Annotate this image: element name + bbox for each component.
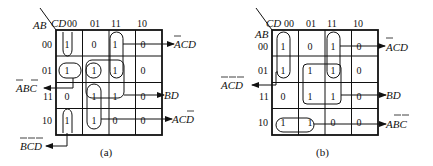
col-label-11: 11 — [111, 18, 121, 29]
karnaugh-figure: AB CD 00 01 11 10 00 01 11 10 1 0 1 0 1 … — [0, 0, 433, 166]
cell: 0 — [308, 41, 313, 52]
cell: 1 — [65, 115, 70, 126]
col-label-00: 00 — [284, 18, 294, 29]
group-abc — [59, 63, 81, 78]
row-label-10: 10 — [258, 117, 268, 128]
cell: 0 — [141, 115, 146, 126]
cell: 1 — [308, 91, 313, 102]
term-label-abc: ABC — [15, 82, 37, 94]
term-label-acd-top: ACD — [385, 41, 408, 53]
caption-b: (b) — [316, 146, 329, 159]
term-label-bd: BD — [164, 89, 179, 101]
row-var-label: AB — [32, 19, 47, 31]
kmap-cells: 1 0 1 0 1 1 1 0 0 1 1 0 1 1 0 0 — [281, 41, 362, 128]
col-label-01: 01 — [306, 18, 316, 29]
cell: 0 — [92, 39, 97, 50]
row-label-01: 01 — [42, 65, 52, 76]
term-label-acd-bar-a: ACD — [173, 38, 196, 50]
term-label-bcd: BCD — [20, 140, 42, 152]
col-label-10: 10 — [137, 18, 147, 29]
cell: 0 — [141, 91, 146, 102]
row-label-11: 11 — [259, 91, 269, 102]
cell: 1 — [113, 39, 118, 50]
caption-a: (a) — [100, 146, 113, 159]
cell: 0 — [281, 91, 286, 102]
row-label-01: 01 — [258, 65, 268, 76]
cell: 1 — [308, 65, 313, 76]
cell: 0 — [113, 115, 118, 126]
kmap-b: CD AB 00 01 11 10 00 01 11 10 1 0 1 0 1 … — [220, 8, 409, 159]
term-label-abc: ABC — [385, 118, 407, 130]
term-label-acd2: ACD — [171, 113, 194, 125]
term-label-bd: BD — [386, 89, 401, 101]
row-label-11: 11 — [43, 91, 53, 102]
cell: 1 — [281, 65, 286, 76]
cell: 1 — [113, 91, 118, 102]
cell: 0 — [65, 91, 70, 102]
cell: 1 — [113, 65, 118, 76]
col-var-label: CD — [51, 17, 66, 29]
cell: 1 — [65, 65, 70, 76]
cell: 0 — [331, 117, 336, 128]
col-label-10: 10 — [353, 18, 363, 29]
cell: 0 — [357, 65, 362, 76]
row-label-10: 10 — [42, 115, 52, 126]
kmap-a: AB CD 00 01 11 10 00 01 11 10 1 0 1 0 1 … — [15, 8, 196, 159]
row-var-label: AB — [254, 28, 269, 40]
cell: 1 — [92, 91, 97, 102]
cell: 0 — [357, 91, 362, 102]
cell: 1 — [331, 91, 336, 102]
col-label-00: 00 — [67, 18, 77, 29]
term-labels: ACD ACD BD ABC — [220, 38, 409, 130]
cell: 1 — [281, 41, 286, 52]
col-label-01: 01 — [90, 18, 100, 29]
cell: 1 — [331, 41, 336, 52]
cell: 1 — [92, 65, 97, 76]
cell: 0 — [141, 65, 146, 76]
cell: 1 — [65, 39, 70, 50]
term-label-acd-left: ACD — [220, 79, 243, 91]
col-label-11: 11 — [327, 18, 337, 29]
cell: 1 — [92, 115, 97, 126]
row-label-00: 00 — [258, 41, 268, 52]
cell: 0 — [357, 117, 362, 128]
cell: 1 — [331, 65, 336, 76]
row-label-00: 00 — [42, 39, 52, 50]
